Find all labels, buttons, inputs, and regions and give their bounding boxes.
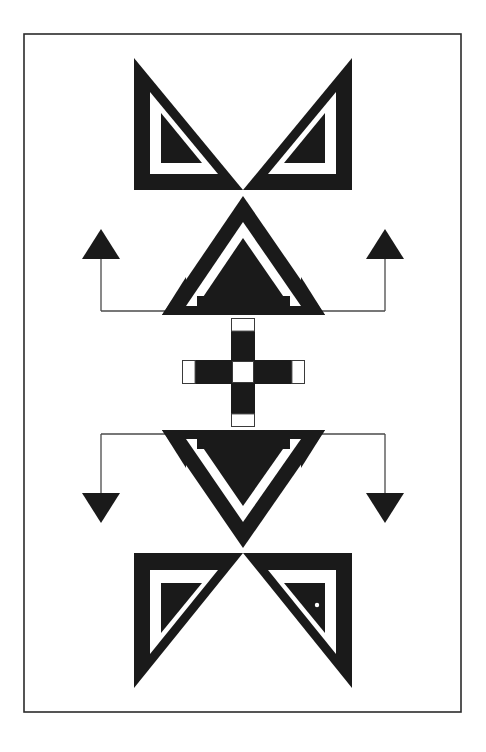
ink-speck-artifact <box>315 603 319 607</box>
cross-cap-right <box>292 361 305 384</box>
upper-triangle-base-block <box>197 296 290 315</box>
cross-cap-top <box>232 319 255 332</box>
lower-triangle-base-block <box>197 430 290 449</box>
cross-cap-left <box>183 361 196 384</box>
cross-center-square <box>233 362 254 383</box>
cross-cap-bottom <box>232 414 255 427</box>
emblem-illustration <box>0 0 486 752</box>
artboard <box>0 0 486 752</box>
